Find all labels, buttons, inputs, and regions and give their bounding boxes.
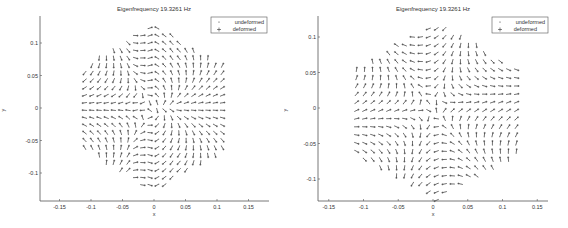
y-tick-label: 0.1 xyxy=(30,40,38,46)
legend-deformed: deformed xyxy=(514,26,537,32)
plot-title: Eigenfrequency 19.3261 Hz xyxy=(117,6,191,12)
y-tick-label: 0.1 xyxy=(308,34,316,40)
vector-field xyxy=(354,27,519,202)
y-tick-label: 0.05 xyxy=(305,70,316,76)
x-axis-label: x xyxy=(432,211,435,217)
plot-title: Eigenfrequency 19.3261 Hz xyxy=(396,6,470,12)
y-tick-label: -0.1 xyxy=(29,170,38,176)
legend: undeformed deformed xyxy=(492,17,548,33)
x-tick-label: 0.05 xyxy=(180,204,191,210)
x-tick-label: -0.1 xyxy=(359,204,368,210)
left-quiver-plot: Eigenfrequency 19.3261 Hz -0.1-0.0500.05… xyxy=(0,0,284,228)
right-quiver-plot: Eigenfrequency 19.3261 Hz -0.1-0.0500.05… xyxy=(284,0,568,228)
x-tick-label: -0.05 xyxy=(116,204,129,210)
x-tick-label: 0 xyxy=(152,204,155,210)
y-tick-label: -0.1 xyxy=(307,176,316,182)
x-tick-label: 0.1 xyxy=(499,204,507,210)
x-axis-label: x xyxy=(153,211,156,217)
y-tick-label: -0.05 xyxy=(25,138,38,144)
legend-deformed: deformed xyxy=(233,26,256,32)
y-axis-label: y xyxy=(284,108,288,111)
x-tick-label: -0.15 xyxy=(322,204,335,210)
x-tick-label: -0.15 xyxy=(53,204,66,210)
vector-field xyxy=(82,26,226,187)
legend-undeformed: undeformed xyxy=(516,19,545,25)
legend-undeformed: undeformed xyxy=(235,19,264,25)
y-tick-label: 0 xyxy=(313,105,316,111)
y-ticks: -0.1-0.0500.050.1 xyxy=(25,40,42,176)
x-tick-label: -0.1 xyxy=(86,204,95,210)
y-tick-label: -0.05 xyxy=(303,141,316,147)
y-ticks: -0.1-0.0500.050.1 xyxy=(303,34,320,182)
undeformed-marker-icon xyxy=(499,21,500,22)
x-tick-label: -0.05 xyxy=(392,204,405,210)
y-axis-label: y xyxy=(0,108,6,111)
x-tick-label: 0.15 xyxy=(532,204,543,210)
x-tick-label: 0 xyxy=(431,204,434,210)
x-tick-label: 0.1 xyxy=(213,204,221,210)
y-tick-label: 0 xyxy=(35,105,38,111)
x-tick-label: 0.15 xyxy=(243,204,254,210)
legend: undeformed deformed xyxy=(211,17,267,33)
undeformed-marker-icon xyxy=(218,21,219,22)
y-tick-label: 0.05 xyxy=(27,73,38,79)
x-tick-label: 0.05 xyxy=(462,204,473,210)
